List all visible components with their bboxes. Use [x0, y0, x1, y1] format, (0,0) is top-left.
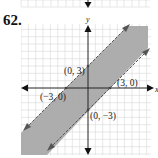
y-axis-label: y [85, 15, 90, 24]
shaded-region [21, 26, 148, 155]
point-label-0-3: (0, 3) [64, 66, 85, 77]
point-label-0-neg3: (0, −3) [90, 111, 116, 122]
point-marker [87, 109, 90, 112]
point-label-3-0: (3, 0) [117, 78, 138, 89]
x-axis-right-arrow-icon [147, 85, 154, 92]
y-axis-up-arrow-icon [85, 25, 92, 32]
x-axis-label: x [154, 85, 158, 94]
point-marker [65, 87, 68, 90]
point-label-neg3-0: (−3, 0) [40, 92, 66, 103]
inequality-graph: y x (0, 3) (3, 0) (−3, 0) (0, −3) [0, 0, 158, 158]
point-marker [87, 65, 90, 68]
point-marker [109, 87, 112, 90]
x-axis-left-arrow-icon [21, 85, 28, 92]
